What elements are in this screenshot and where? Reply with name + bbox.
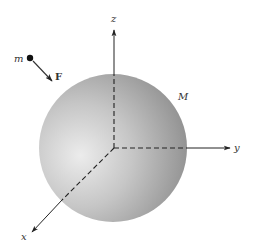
force-arrow — [33, 61, 52, 81]
force-label: F — [55, 71, 62, 82]
sphere-mass-label: M — [177, 91, 189, 102]
particle-m — [27, 55, 33, 61]
x-axis-label: x — [21, 231, 27, 242]
particle-label: m — [14, 53, 23, 64]
z-axis-label: z — [110, 13, 117, 24]
y-axis-label: y — [233, 142, 240, 153]
diagram-canvas: z y x m F M — [0, 0, 255, 250]
